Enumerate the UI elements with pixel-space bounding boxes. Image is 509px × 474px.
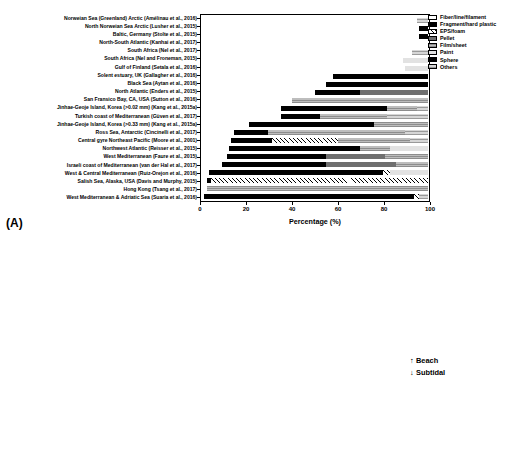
legend-item-film: Film/sheet: [428, 42, 506, 48]
bar-row: [202, 90, 428, 95]
bar-segment-others: [410, 138, 428, 143]
legend-item-pellet: Pellet: [428, 35, 506, 41]
bar-segment-fiber: [202, 154, 227, 159]
x-tick-label: 80: [381, 206, 388, 212]
legend-label-others: Others: [440, 64, 457, 70]
legend-label-fragment: Fragment/hard plastic: [440, 21, 496, 27]
bar-row: [202, 130, 428, 135]
category-label: Salish Sea, Alaska, USA (Davis and Murph…: [4, 179, 197, 184]
bar-segment-eps: [211, 178, 428, 183]
category-label: West Mediterranean & Adriatic Sea (Suari…: [4, 195, 197, 200]
bar-segment-fragment: [315, 90, 360, 95]
legend-item-sphere: Sphere: [428, 57, 506, 63]
panel-a-bars: [202, 16, 428, 200]
category-label: Baltic, Germany (Stolte et al., 2015): [4, 32, 197, 37]
bar-segment-film: [207, 186, 428, 191]
legend-swatch-others: [428, 64, 437, 69]
category-label: Ross Sea, Antarctic (Cincinelli et al., …: [4, 130, 197, 135]
category-label: Jinhae-Geoje Island, Korea (>0.02 mm) (K…: [4, 105, 197, 110]
group-label-beach: Beach: [416, 356, 438, 365]
panel-a-category-labels: Norweian Sea (Greenland) Arctic (Amélina…: [4, 14, 197, 202]
legend-swatch-pellet: [428, 36, 437, 41]
category-label: North Norweian Sea Arctic (Lusher et al.…: [4, 24, 197, 29]
x-tick: [246, 202, 247, 205]
panel-a-x-axis-title: Percentage (%): [200, 217, 430, 226]
legend-label-eps: EPS/foam: [440, 28, 465, 34]
bar-row: [202, 106, 428, 111]
legend-swatch-film: [428, 43, 437, 48]
category-label: South Africa (Nel et al., 2017): [4, 48, 197, 53]
legend-label-pellet: Pellet: [440, 35, 454, 41]
bar-segment-fragment: [229, 146, 360, 151]
bar-segment-others: [405, 130, 428, 135]
legend-label-paint: Paint: [440, 49, 453, 55]
bar-segment-fragment: [419, 34, 428, 39]
x-tick: [338, 202, 339, 205]
bar-segment-paint: [405, 66, 428, 71]
bar-segment-fiber: [202, 90, 315, 95]
bar-segment-fiber: [202, 74, 333, 79]
x-tick: [200, 202, 201, 205]
x-tick: [292, 202, 293, 205]
bar-segment-fragment: [222, 162, 326, 167]
panel-a-plot: [200, 14, 430, 202]
panel-a-x-axis: 020406080100 Percentage (%): [200, 202, 430, 224]
bar-row: [202, 58, 428, 63]
category-label: Central gyre Northeast Pacific (Moore et…: [4, 138, 197, 143]
bar-row: [202, 186, 428, 191]
bar-segment-film: [387, 106, 416, 111]
bar-segment-pellet: [326, 154, 385, 159]
category-label: Hong Kong (Tsang et al., 2017): [4, 187, 197, 192]
x-tick-label: 60: [335, 206, 342, 212]
bar-segment-paint: [390, 170, 428, 175]
bar-segment-paint: [390, 146, 428, 151]
bar-segment-fiber: [202, 66, 405, 71]
bar-segment-others: [417, 106, 428, 111]
bar-row: [202, 66, 428, 71]
legend-swatch-fiber: [428, 15, 437, 20]
bar-segment-fiber: [202, 170, 209, 175]
bar-segment-fragment: [281, 114, 319, 119]
legend-item-others: Others: [428, 64, 506, 70]
bar-segment-others: [419, 194, 428, 199]
bar-segment-fiber: [202, 26, 419, 31]
legend-item-paint: Paint: [428, 49, 506, 55]
bar-segment-eps: [383, 170, 390, 175]
category-label: West & Central Mediterranean (Ruiz-Orejo…: [4, 171, 197, 176]
category-label: West Mediterranean (Faure et al., 2015): [4, 155, 197, 160]
category-label: North Atlantic (Enders et al., 2015): [4, 89, 197, 94]
bar-segment-fragment: [419, 26, 428, 31]
bar-segment-others: [417, 18, 428, 23]
x-tick: [430, 202, 431, 205]
panel-a-legend: Fiber/line/filamentFragment/hard plastic…: [428, 14, 506, 71]
bar-segment-fiber: [202, 18, 417, 23]
x-tick-label: 0: [198, 206, 201, 212]
bar-segment-fiber: [202, 146, 229, 151]
bar-segment-fragment: [249, 122, 373, 127]
legend-swatch-eps: [428, 29, 437, 34]
legend-swatch-paint: [428, 50, 437, 55]
legend-label-sphere: Sphere: [440, 57, 458, 63]
legend-item-fiber: Fiber/line/filament: [428, 14, 506, 20]
x-tick-label: 100: [425, 206, 435, 212]
x-tick: [384, 202, 385, 205]
bar-row: [202, 34, 428, 39]
group-label-subtidal: Subtidal: [416, 368, 445, 377]
bar-row: [202, 114, 428, 119]
bar-segment-fiber: [202, 122, 249, 127]
category-label: San Fransico Bay, CA, USA (Sutton et al.…: [4, 97, 197, 102]
bar-row: [202, 50, 428, 55]
x-tick-label: 20: [243, 206, 250, 212]
bar-segment-paint: [403, 58, 428, 63]
category-label: Israeli coast of Mediterranean (van der …: [4, 163, 197, 168]
bar-segment-eps: [272, 138, 338, 143]
legend-item-eps: EPS/foam: [428, 28, 506, 34]
bar-row: [202, 18, 428, 23]
bar-segment-fragment: [204, 194, 414, 199]
group-annotation-beach: ↑Beach: [410, 356, 438, 365]
bar-segment-fiber: [202, 58, 403, 63]
bar-segment-pellet: [360, 90, 428, 95]
bar-segment-film: [396, 162, 428, 167]
category-label: Gulf of Finland (Setala et al., 2016): [4, 65, 197, 70]
bar-row: [202, 162, 428, 167]
